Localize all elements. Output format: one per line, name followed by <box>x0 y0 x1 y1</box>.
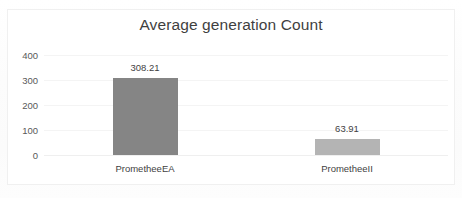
data-label-PrometheeEA: 308.21 <box>130 62 159 73</box>
y-axis-tick-300: 300 <box>4 75 38 86</box>
gridline-200 <box>44 105 448 106</box>
x-axis-label-PrometheeII: PrometheeII <box>321 163 373 174</box>
chart-page: Average generation Count 4003002001000 3… <box>0 0 462 198</box>
x-axis-label-PrometheeEA: PrometheeEA <box>115 163 174 174</box>
y-axis-tick-100: 100 <box>4 125 38 136</box>
bar-PrometheeEA[interactable] <box>113 78 178 155</box>
y-axis-tick-400: 400 <box>4 50 38 61</box>
bar-PrometheeII[interactable] <box>315 139 380 155</box>
y-axis-tick-0: 0 <box>4 150 38 161</box>
y-axis-tick-200: 200 <box>4 100 38 111</box>
gridline-100 <box>44 130 448 131</box>
gridline-0 <box>44 155 448 156</box>
y-axis: 4003002001000 <box>4 55 38 155</box>
gridline-400 <box>44 55 448 56</box>
plot-area: 308.2163.91 <box>44 55 448 155</box>
data-label-PrometheeII: 63.91 <box>335 123 359 134</box>
gridline-300 <box>44 80 448 81</box>
chart-title: Average generation Count <box>0 16 462 34</box>
